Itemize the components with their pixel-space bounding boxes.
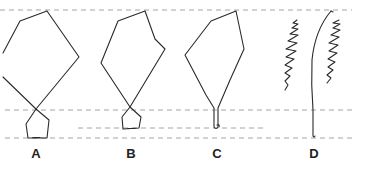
panel-label-b: B (121, 146, 141, 161)
shape-c (185, 11, 244, 129)
panel-label-d: D (304, 146, 324, 161)
shape-b (101, 11, 165, 129)
diagram-canvas (0, 0, 370, 169)
shape-d (285, 11, 340, 137)
shape-a (3, 11, 79, 138)
panel-label-a: A (26, 146, 46, 161)
panel-label-c: C (207, 146, 227, 161)
